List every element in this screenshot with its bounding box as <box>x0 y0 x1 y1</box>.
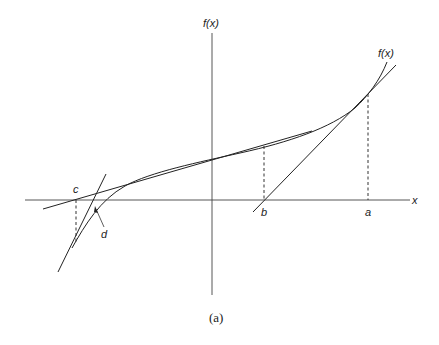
figure-caption: (a) <box>209 311 223 324</box>
y-axis-label: f(x) <box>203 18 219 29</box>
x-axis-label: x <box>412 195 418 206</box>
tangent-at-b <box>43 131 312 209</box>
curve-label: f(x) <box>378 48 394 59</box>
tangent-at-c <box>58 174 106 272</box>
point-a-label: a <box>365 207 371 218</box>
newton-method-diagram <box>0 0 439 345</box>
point-b-label: b <box>261 207 267 218</box>
point-d-label: d <box>101 229 107 240</box>
point-c-label: c <box>73 184 79 195</box>
tangent-at-a <box>253 65 396 212</box>
